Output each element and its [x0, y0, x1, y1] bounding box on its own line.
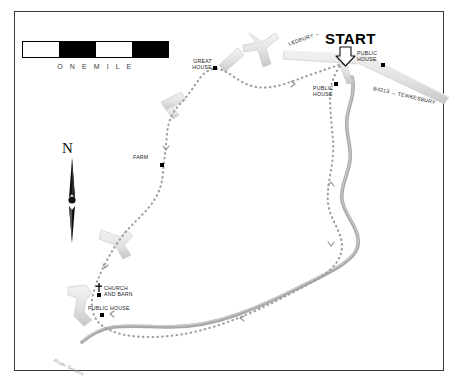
river-path	[82, 76, 358, 342]
label-public-house-start: PUBLIC HOUSE	[357, 51, 377, 63]
marker-public-house-village	[100, 313, 104, 317]
route-direction-chevron	[110, 311, 114, 317]
scale-bar-label: O N E M I L E	[22, 63, 169, 70]
label-public-house-north: PUBLIC HOUSE	[313, 86, 333, 98]
marker-farm	[160, 163, 164, 167]
route-direction-chevron	[291, 81, 295, 87]
church-cross-icon	[96, 283, 102, 292]
road-great-house	[219, 48, 244, 72]
map-page: O N E M I L E N START GREAT HOUSE FARM C…	[0, 0, 458, 386]
road-segments	[68, 33, 449, 326]
marker-great-house	[213, 66, 217, 70]
scale-bar	[22, 41, 169, 58]
north-arrow-icon	[68, 158, 75, 243]
scale-segment	[59, 42, 95, 57]
label-farm: FARM	[133, 155, 148, 161]
marker-public-house-north	[334, 82, 338, 86]
road-mid-left	[161, 92, 186, 119]
road-lower-left	[99, 230, 133, 259]
compass-north-letter: N	[62, 140, 73, 157]
start-label: START	[325, 31, 376, 48]
scale-segment	[23, 42, 59, 57]
marker-public-house-start	[381, 63, 385, 67]
scale-segment	[96, 42, 132, 57]
route-direction-chevron	[328, 182, 334, 186]
route-direction-chevron	[328, 242, 334, 246]
scale-segment	[132, 42, 168, 57]
label-public-house-village: PUBLIC HOUSE	[88, 306, 130, 312]
road-crossroads-north	[243, 33, 279, 67]
marker-church-and-barn	[97, 293, 101, 297]
label-church-and-barn: CHURCH AND BARN	[104, 286, 133, 298]
label-great-house: GREAT HOUSE	[186, 59, 212, 71]
